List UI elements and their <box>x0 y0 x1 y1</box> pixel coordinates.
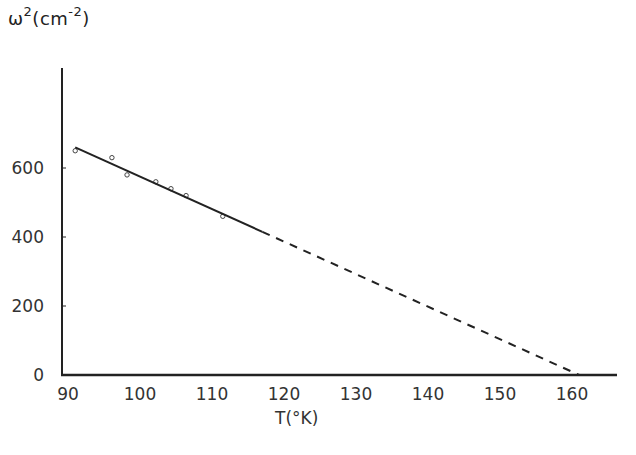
x-tick-label: 130 <box>340 384 372 404</box>
x-tick-label: 100 <box>124 384 156 404</box>
x-tick-label: 160 <box>556 384 588 404</box>
y-tick-label: 600 <box>12 158 44 178</box>
y-tick-label: 200 <box>12 296 44 316</box>
data-point <box>125 173 129 177</box>
extrapolation-line <box>262 232 579 375</box>
x-tick-label: 150 <box>484 384 516 404</box>
y-tick-label: 0 <box>33 365 44 385</box>
x-tick-label: 90 <box>57 384 79 404</box>
chart-plot-area: 020040060090100110120130140150160 <box>0 0 636 455</box>
x-tick-label: 110 <box>196 384 228 404</box>
y-tick-label: 400 <box>12 227 44 247</box>
data-point <box>110 155 114 159</box>
fit-line <box>75 147 262 232</box>
data-point <box>73 149 77 153</box>
x-tick-label: 120 <box>268 384 300 404</box>
x-tick-label: 140 <box>412 384 444 404</box>
x-axis-label: T(°K) <box>275 408 318 428</box>
